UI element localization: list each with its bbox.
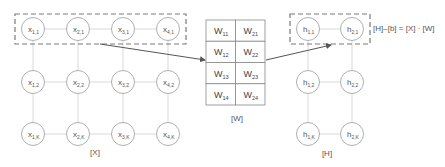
x-node: x4,1 [157, 18, 180, 41]
arrow-x-to-w [100, 44, 205, 60]
h-node: h1,2 [297, 71, 320, 94]
x-caption: [X] [90, 148, 100, 157]
x-node: x1,2 [22, 71, 45, 94]
h-node: h1,1 [297, 18, 320, 41]
x-node: x1,K [22, 123, 45, 146]
h-node: h1,K [297, 123, 320, 146]
h-node: h2,K [341, 123, 364, 146]
x-node: x4,K [157, 123, 180, 146]
formula-label: [H]–[b] = [X] · [W] [373, 24, 435, 33]
diagram-canvas: x1,1x2,1x3,1x4,1x1,2x2,2x3,2x4,2x1,Kx2,K… [0, 0, 445, 167]
w-matrix: W11W21W12W22W13W23W14W24 [206, 20, 265, 105]
x-node: x3,1 [112, 18, 135, 41]
h-node: h2,1 [341, 18, 364, 41]
x-node: x2,1 [67, 18, 90, 41]
h-caption: [H] [322, 149, 332, 158]
x-node: x3,K [112, 123, 135, 146]
h-nodes: h1,1h2,1h1,2h2,2h1,Kh2,K [297, 18, 364, 146]
h-node: h2,2 [341, 71, 364, 94]
x-node: x2,K [67, 123, 90, 146]
x-node: x4,2 [157, 71, 180, 94]
x-grid-edges [33, 29, 168, 134]
x-node: x1,1 [22, 18, 45, 41]
arrow-w-to-h [266, 45, 331, 60]
x-node: x3,2 [112, 71, 135, 94]
x-node: x2,2 [67, 71, 90, 94]
w-caption: [W] [231, 114, 243, 123]
x-nodes: x1,1x2,1x3,1x4,1x1,2x2,2x3,2x4,2x1,Kx2,K… [22, 18, 180, 146]
